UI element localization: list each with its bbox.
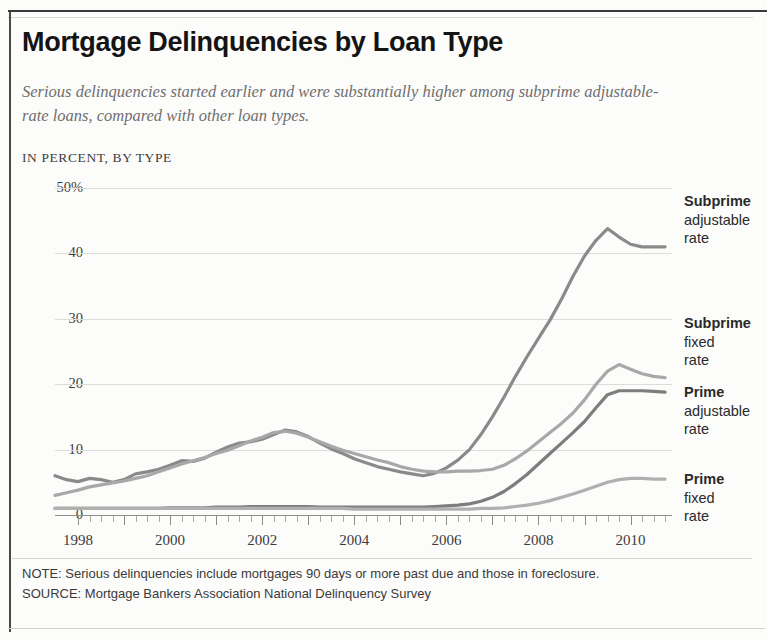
x-axis-tick	[205, 516, 206, 522]
x-axis-tick	[343, 516, 344, 522]
x-axis-tick	[228, 516, 229, 522]
x-axis-tick	[400, 516, 401, 525]
x-axis-tick	[642, 516, 643, 522]
x-axis-tick	[262, 516, 263, 525]
x-axis-tick-label: 2008	[523, 532, 553, 549]
x-axis-tick	[274, 516, 275, 522]
x-axis-tick	[389, 516, 390, 522]
x-axis-tick	[78, 516, 79, 525]
x-axis-tick	[435, 516, 436, 522]
footer-divider	[12, 558, 752, 559]
legend-item-line3: rate	[684, 420, 767, 439]
x-axis-tick	[331, 516, 332, 522]
legend-item: Primeadjustablerate	[684, 383, 767, 439]
x-axis-tick	[423, 516, 424, 522]
x-axis-tick	[285, 516, 286, 522]
x-axis-tick	[412, 516, 413, 522]
legend-item-line3: rate	[684, 351, 767, 370]
legend-item-line2: fixed	[684, 333, 767, 352]
x-axis-tick-label: 2002	[247, 532, 277, 549]
chart-page: Mortgage Delinquencies by Loan Type Seri…	[0, 0, 767, 639]
legend-item-title: Subprime	[684, 192, 767, 211]
legend-item-line2: adjustable	[684, 402, 767, 421]
legend-item: Subprimeadjustablerate	[684, 192, 767, 248]
x-axis-tick	[308, 516, 309, 525]
chart-source: SOURCE: Mortgage Bankers Association Nat…	[22, 586, 431, 601]
top-divider	[8, 10, 767, 12]
legend-item-line3: rate	[684, 229, 767, 248]
x-axis-tick	[654, 516, 655, 522]
x-axis-tick-label: 2006	[431, 532, 461, 549]
x-axis-tick	[446, 516, 447, 525]
x-axis-tick	[458, 516, 459, 522]
x-axis-tick-label: 2010	[616, 532, 646, 549]
bottom-divider	[8, 628, 765, 629]
x-axis-tick-label: 2000	[155, 532, 185, 549]
x-axis-tick	[504, 516, 505, 522]
x-axis-tick	[527, 516, 528, 522]
x-axis-tick	[320, 516, 321, 522]
legend-item-title: Prime	[684, 470, 767, 489]
x-axis-tick	[469, 516, 470, 522]
x-axis-tick	[665, 516, 666, 522]
x-axis-tick	[136, 516, 137, 522]
legend-item-title: Prime	[684, 383, 767, 402]
x-axis-tick	[561, 516, 562, 522]
x-axis-tick	[608, 516, 609, 522]
x-axis-tick	[101, 516, 102, 522]
x-axis-tick	[619, 516, 620, 522]
x-axis-tick	[113, 516, 114, 522]
x-axis-tick	[193, 516, 194, 522]
x-axis-tick	[631, 516, 632, 525]
series-line	[55, 391, 665, 509]
page-title: Mortgage Delinquencies by Loan Type	[22, 27, 503, 58]
x-axis-tick	[585, 516, 586, 525]
chart-lines	[55, 188, 672, 515]
x-axis-tick	[515, 516, 516, 522]
x-axis-tick	[239, 516, 240, 522]
x-axis-tick	[170, 516, 171, 525]
legend-item: Subprimefixedrate	[684, 314, 767, 370]
chart-note: NOTE: Serious delinquencies include mort…	[22, 566, 599, 581]
x-axis-tick	[147, 516, 148, 522]
x-axis-tick-label: 2004	[339, 532, 369, 549]
x-axis-tick	[90, 516, 91, 522]
x-axis-tick	[550, 516, 551, 522]
x-axis-tick	[573, 516, 574, 522]
x-axis-tick	[354, 516, 355, 525]
legend-item-line3: rate	[684, 507, 767, 526]
x-axis-tick	[297, 516, 298, 522]
x-axis-tick	[182, 516, 183, 522]
series-line	[55, 478, 665, 509]
x-axis-tick	[596, 516, 597, 522]
x-axis-tick	[538, 516, 539, 525]
legend-item-line2: adjustable	[684, 211, 767, 230]
legend-item-line2: fixed	[684, 489, 767, 508]
series-line	[55, 229, 665, 483]
legend-item: Primefixedrate	[684, 470, 767, 526]
left-border	[9, 12, 11, 632]
x-axis-tick	[366, 516, 367, 522]
x-axis-tick	[377, 516, 378, 522]
top-divider-secondary	[8, 17, 753, 18]
x-axis-tick	[481, 516, 482, 522]
plot-area	[55, 188, 672, 515]
chart-units-kicker: IN PERCENT, BY TYPE	[22, 150, 172, 166]
x-axis-tick	[124, 516, 125, 525]
x-axis-tick	[492, 516, 493, 525]
chart-subtitle: Serious delinquencies started earlier an…	[22, 80, 682, 128]
x-axis-tick	[159, 516, 160, 522]
x-axis-tick	[251, 516, 252, 522]
x-axis-tick-label: 1998	[63, 532, 93, 549]
x-axis-tick	[216, 516, 217, 525]
legend-item-title: Subprime	[684, 314, 767, 333]
